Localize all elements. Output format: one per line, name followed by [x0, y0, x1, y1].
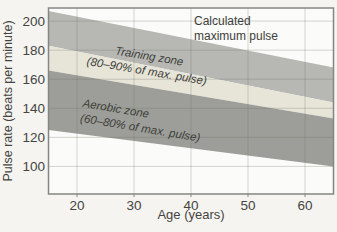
- x-axis-label: Age (years): [48, 207, 334, 222]
- y-tick-label: 100: [22, 159, 45, 174]
- y-tick-label: 160: [22, 72, 45, 87]
- annotation-calculated-maximum-pulse: Calculated maximum pulse: [194, 14, 278, 45]
- y-tick-label: 140: [22, 101, 45, 116]
- y-tick-label: 120: [22, 130, 45, 145]
- pulse-rate-zones-chart: 2030405060100120140160180200 Pulse rate …: [0, 0, 337, 232]
- y-tick-label: 200: [22, 14, 45, 29]
- y-tick-label: 180: [22, 43, 45, 58]
- y-axis-label: Pulse rate (beats per minute): [1, 8, 17, 194]
